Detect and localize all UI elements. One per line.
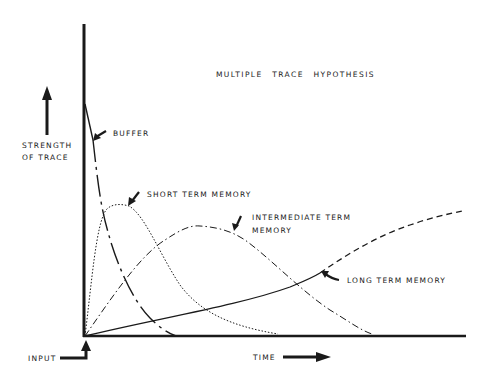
intermediate-term-memory-label-line1: INTERMEDIATE TERM [252,213,351,222]
intermediate-term-memory-label-line2: MEMORY [252,226,292,235]
input-arrow-icon [60,340,91,358]
long-term-memory-label: LONG TERM MEMORY [347,276,446,285]
time-label: TIME [252,353,276,362]
input-label: INPUT [28,354,56,363]
buffer-label: BUFFER [113,129,149,138]
short-term-memory-curve [85,205,278,336]
long-term-memory-arrow-icon [321,271,339,280]
chart-title: MULTIPLE TRACE HYPOTHESIS [216,70,375,79]
short-term-memory-arrow-icon [128,192,139,206]
long-term-memory-curve [85,273,320,336]
chart: MULTIPLE TRACE HYPOTHESIS STRENGTH OF TR… [0,0,484,379]
buffer-arrow-icon [93,131,106,141]
intermediate-term-memory-arrow-icon [232,216,241,231]
time-arrow-icon [283,352,331,362]
buffer-curve [85,104,93,140]
y-axis-label-line1: STRENGTH [22,141,72,150]
short-term-memory-label: SHORT TERM MEMORY [147,190,252,199]
intermediate-term-memory-curve [85,226,372,336]
y-axis-label-line2: OF TRACE [22,153,69,162]
y-axis-arrow-icon [42,86,52,135]
